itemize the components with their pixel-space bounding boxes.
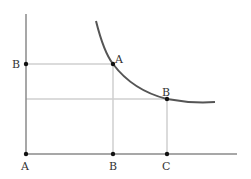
label-x-origin-a: A — [20, 160, 30, 173]
point-origin-a — [24, 152, 28, 156]
label-curve-a: A — [114, 53, 124, 66]
label-x-c: C — [162, 160, 170, 173]
indifference-curve — [96, 21, 215, 102]
label-curve-b: B — [162, 86, 170, 99]
point-x-c — [165, 152, 169, 156]
point-x-b — [111, 152, 115, 156]
diagram-canvas: B A B A B C — [0, 0, 251, 179]
point-y-axis-b — [24, 62, 28, 66]
label-y-axis-b: B — [12, 58, 20, 71]
label-x-b: B — [109, 160, 117, 173]
